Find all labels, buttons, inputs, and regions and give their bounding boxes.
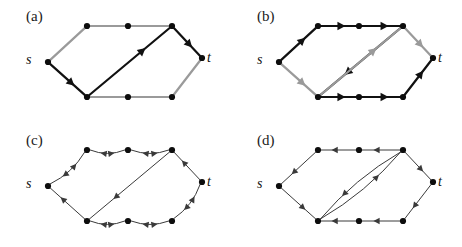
graph-node-bm[interactable] bbox=[356, 94, 362, 100]
graph-node-br[interactable] bbox=[400, 218, 406, 224]
graph-edge bbox=[281, 28, 315, 60]
graph-node-t[interactable] bbox=[199, 55, 205, 61]
graph-edge bbox=[89, 28, 169, 95]
graph-node-bl[interactable] bbox=[315, 94, 321, 100]
graph-node-bl[interactable] bbox=[315, 218, 321, 224]
graph-edge bbox=[174, 152, 200, 179]
graph-edge bbox=[405, 28, 431, 55]
panel-c: (c)st bbox=[0, 124, 231, 247]
graph-node-t[interactable] bbox=[199, 179, 205, 185]
edge-line bbox=[131, 221, 169, 225]
edge-line bbox=[281, 152, 315, 184]
edge-arrowhead bbox=[101, 222, 108, 228]
edge-arrowhead bbox=[108, 151, 115, 157]
panel-d: (d)st bbox=[231, 124, 462, 247]
graph-node-tr[interactable] bbox=[400, 147, 406, 153]
panel-d-source-label: s bbox=[257, 176, 262, 192]
edge-arrowhead bbox=[337, 93, 345, 101]
graph-node-tl[interactable] bbox=[84, 23, 90, 29]
edge-arrowhead bbox=[381, 93, 389, 101]
graph-node-tm[interactable] bbox=[125, 23, 131, 29]
graph-edge bbox=[90, 221, 125, 228]
graph-edge bbox=[50, 188, 84, 219]
panel-d-sink-label: t bbox=[438, 174, 442, 190]
edge-arrowhead bbox=[381, 22, 389, 30]
edge-line bbox=[281, 64, 315, 95]
graph-node-s[interactable] bbox=[45, 183, 51, 189]
edge-arrowhead bbox=[151, 222, 158, 228]
graph-node-tl[interactable] bbox=[315, 147, 321, 153]
panel-b-caption: (b) bbox=[257, 8, 275, 25]
edge-line bbox=[174, 60, 200, 94]
edge-line bbox=[90, 221, 125, 225]
edge-arrowhead bbox=[413, 201, 419, 208]
graph-edge bbox=[320, 152, 400, 219]
graph-edge bbox=[362, 93, 400, 101]
edge-arrowhead bbox=[373, 147, 379, 153]
graph-node-br[interactable] bbox=[400, 94, 406, 100]
panel-d-caption: (d) bbox=[257, 132, 275, 149]
graph-edge bbox=[320, 152, 400, 219]
edge-line bbox=[89, 28, 169, 95]
graph-edge bbox=[321, 218, 356, 224]
graph-edge bbox=[50, 28, 84, 60]
edge-line bbox=[320, 152, 400, 219]
graph-edge bbox=[131, 150, 169, 157]
edge-arrowhead bbox=[337, 22, 345, 30]
graph-node-s[interactable] bbox=[276, 183, 282, 189]
edge-arrowhead bbox=[332, 147, 338, 153]
graph-edge bbox=[89, 152, 169, 219]
graph-node-tm[interactable] bbox=[356, 23, 362, 29]
graph-edge bbox=[321, 22, 356, 30]
graph-edge bbox=[321, 147, 356, 153]
graph-node-tr[interactable] bbox=[400, 23, 406, 29]
edge-arrowhead bbox=[108, 222, 115, 228]
graph-edge bbox=[50, 152, 84, 184]
graph-edge bbox=[405, 184, 431, 218]
graph-node-s[interactable] bbox=[276, 59, 282, 65]
graph-node-br[interactable] bbox=[169, 218, 175, 224]
edge-line bbox=[89, 152, 169, 219]
graph-edge bbox=[281, 64, 315, 95]
graph-node-tl[interactable] bbox=[315, 23, 321, 29]
edge-line bbox=[90, 150, 125, 154]
panel-b-source-label: s bbox=[257, 52, 262, 68]
graph-edge bbox=[320, 28, 400, 95]
graph-node-t[interactable] bbox=[430, 55, 436, 61]
graph-edge bbox=[321, 93, 356, 101]
panel-a-source-label: s bbox=[26, 52, 31, 68]
graph-edge bbox=[281, 152, 315, 184]
graph-node-tl[interactable] bbox=[84, 147, 90, 153]
graph-node-tm[interactable] bbox=[356, 147, 362, 153]
graph-node-bl[interactable] bbox=[84, 94, 90, 100]
edge-line bbox=[281, 28, 315, 60]
graph-node-s[interactable] bbox=[45, 59, 51, 65]
graph-node-tm[interactable] bbox=[125, 147, 131, 153]
graph-edge bbox=[131, 221, 169, 228]
edge-line bbox=[174, 152, 200, 179]
edge-line bbox=[50, 188, 84, 219]
graph-node-bm[interactable] bbox=[125, 218, 131, 224]
edge-line bbox=[320, 152, 400, 219]
graph-edge bbox=[174, 28, 200, 55]
graph-node-bm[interactable] bbox=[125, 94, 131, 100]
edge-arrowhead bbox=[101, 151, 108, 157]
graph-edge bbox=[405, 152, 431, 179]
graph-node-t[interactable] bbox=[430, 179, 436, 185]
panel-b-sink-label: t bbox=[438, 50, 442, 66]
graph-node-tr[interactable] bbox=[169, 147, 175, 153]
graph-edge bbox=[362, 218, 400, 224]
edge-arrowhead bbox=[189, 196, 195, 203]
graph-node-bl[interactable] bbox=[84, 218, 90, 224]
panel-a: (a)st bbox=[0, 0, 231, 123]
panel-c-source-label: s bbox=[26, 176, 31, 192]
edge-arrowhead bbox=[332, 218, 338, 224]
graph-node-br[interactable] bbox=[169, 94, 175, 100]
graph-node-tr[interactable] bbox=[169, 23, 175, 29]
edge-line bbox=[320, 28, 400, 95]
graph-edge bbox=[174, 184, 200, 218]
graph-node-bm[interactable] bbox=[356, 218, 362, 224]
panel-b: (b)st bbox=[231, 0, 462, 123]
graph-edge bbox=[362, 22, 400, 30]
graph-edge bbox=[174, 60, 200, 94]
